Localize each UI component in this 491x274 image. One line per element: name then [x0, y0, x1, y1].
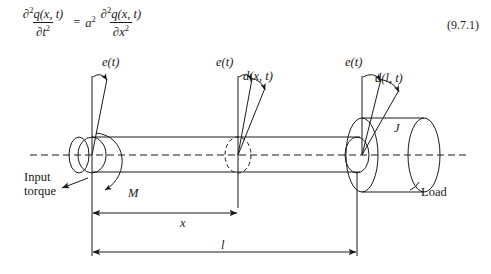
label-e-t-left: e(t)	[102, 55, 119, 70]
label-dimension-l: l	[221, 238, 224, 253]
label-moment-m: M	[128, 186, 138, 201]
label-inertia-j: J	[394, 121, 400, 136]
label-e-t-right: e(t)	[345, 55, 362, 70]
angle-arc-et-left	[93, 75, 107, 80]
input-torque-line-2: torque	[24, 184, 56, 198]
label-input-torque: Input torque	[24, 170, 56, 198]
rotated-radius-left	[92, 79, 107, 155]
label-e-t-mid: e(t)	[216, 55, 233, 70]
label-dimension-x: x	[180, 216, 186, 231]
input-torque-line-1: Input	[24, 170, 56, 184]
torsional-shaft-diagram	[0, 0, 491, 274]
disk-right-face-ellipse	[408, 118, 440, 192]
label-load: Load	[421, 185, 447, 200]
input-torque-arc	[96, 133, 122, 190]
rotated-radius-mid-d	[238, 88, 265, 155]
label-d-x-t: d(x, t)	[243, 69, 273, 84]
rotated-radius-right-et	[362, 79, 381, 155]
rotated-radius-mid-et	[238, 79, 252, 155]
figure-container: ∂2q(x, t) ∂t2 = a2 ∂2q(x, t) ∂x2 (9.7.1)	[0, 0, 491, 274]
label-d-l-t: d(l, t)	[375, 71, 403, 86]
input-torque-arrow	[62, 178, 88, 188]
